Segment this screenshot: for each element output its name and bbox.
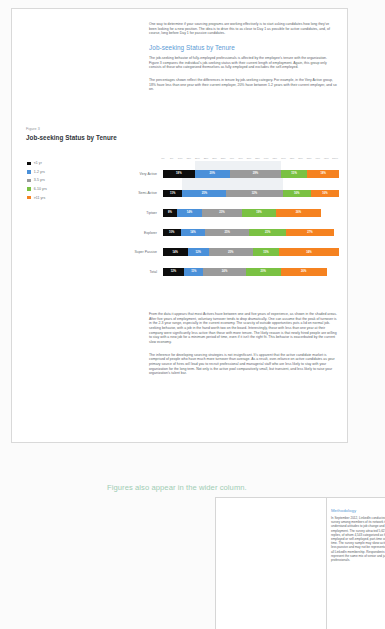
bar-segment: 10% [163, 229, 181, 237]
axis-tick-label: 45% [238, 157, 243, 159]
bar-segment: 26% [276, 209, 322, 217]
bar-segment: 18% [163, 170, 195, 178]
legend-swatch-icon [27, 179, 31, 183]
chart-bar-row: Explorer10%14%25%21%27% [111, 223, 339, 243]
bar-segment-value: 14% [190, 231, 195, 234]
figure-number: Figure 3 [26, 127, 146, 131]
methodology-column: Methodology In September 2012, LinkedIn … [331, 508, 385, 562]
bar-segment-value: 12% [195, 251, 200, 254]
chart-bar-row: Very Active18%20%29%15%18% [111, 164, 339, 184]
legend-label: >11 yrs [34, 196, 46, 200]
legend-item: 3-5 yrs [27, 176, 47, 185]
bar-segment-value: 25% [228, 251, 233, 254]
bar-segment-value: 20% [261, 270, 266, 273]
bar-track: 11%25%32%16%16% [163, 190, 339, 198]
bar-segment-value: 23% [219, 211, 224, 214]
bar-segment: 29% [230, 170, 281, 178]
page-sheet-main: One way to determine if your sourcing pr… [11, 8, 348, 443]
bar-segment-value: 11% [191, 270, 196, 273]
bar-segment: 25% [209, 248, 253, 256]
chart-bar-row: Total12%11%24%20%26% [111, 262, 339, 282]
chart-bar-row: Super Passive14%12%25%15%34% [111, 242, 339, 262]
bar-segment: 25% [205, 229, 249, 237]
axis-tick-label: 15% [186, 157, 191, 159]
bar-track: 18%20%29%15%18% [163, 170, 339, 178]
bar-category-label: Semi-Active [111, 191, 163, 195]
axis-tick-label: 5% [170, 157, 173, 159]
axis-tick-label: 70% [281, 157, 286, 159]
bar-segment: 16% [283, 190, 311, 198]
bar-segment-value: 26% [296, 211, 301, 214]
bar-segment-value: 21% [265, 231, 270, 234]
bar-segment-value: 25% [202, 192, 207, 195]
bar-segment: 16% [311, 190, 339, 198]
axis-tick-label: 20% [195, 157, 200, 159]
bar-segment: 23% [202, 209, 242, 217]
bar-segment-value: 10% [169, 231, 174, 234]
section-heading: Job-seeking Status by Tenure [149, 44, 337, 51]
document-page-spread: One way to determine if your sourcing pr… [0, 0, 385, 629]
bar-segment-value: 16% [294, 192, 299, 195]
intro-paragraph: One way to determine if your sourcing pr… [149, 22, 337, 36]
bar-segment-value: 29% [253, 172, 258, 175]
bar-segment: 8% [163, 209, 177, 217]
chart-bar-row: Semi-Active11%25%32%16%16% [111, 184, 339, 204]
bar-segment: 15% [253, 248, 279, 256]
legend-label: 1-2 yrs [34, 170, 45, 174]
bar-segment: 12% [188, 248, 209, 256]
bar-segment-value: 24% [222, 270, 227, 273]
figure-title: Job-seeking Status by Tenure [26, 134, 146, 141]
bar-track: 14%12%25%15%34% [163, 248, 339, 256]
methodology-heading: Methodology [331, 508, 385, 513]
chart-bars: Very Active18%20%29%15%18%Semi-Active11%… [111, 164, 339, 282]
bar-segment-value: 20% [210, 172, 215, 175]
bar-segment: 14% [177, 209, 202, 217]
body-text-column-lower: From the data it appears that most Activ… [149, 312, 337, 384]
axis-tick-label: 30% [212, 157, 217, 159]
axis-tick-label: 65% [272, 157, 277, 159]
bar-segment: 20% [246, 268, 281, 276]
axis-tick-label: 60% [264, 157, 269, 159]
page-sheet-methodology: Methodology In September 2012, LinkedIn … [215, 497, 385, 629]
bar-segment-value: 14% [187, 211, 192, 214]
bar-segment-value: 11% [170, 192, 175, 195]
bar-category-label: Tiptoer [111, 211, 163, 215]
bar-segment: 26% [281, 268, 327, 276]
bar-segment-value: 8% [168, 211, 172, 214]
legend-swatch-icon [27, 196, 31, 200]
bar-segment: 27% [286, 229, 334, 237]
methodology-paragraph: In September 2012, LinkedIn conducted a … [331, 516, 385, 562]
bar-segment: 21% [249, 229, 286, 237]
bar-segment: 32% [226, 190, 282, 198]
legend-item: 6-10 yrs [27, 185, 47, 194]
axis-tick-label: 0% [161, 157, 164, 159]
legend-item: >11 yrs [27, 193, 47, 202]
bar-category-label: Total [111, 270, 163, 274]
bar-segment-value: 19% [256, 211, 261, 214]
chart-x-axis: 0%5%10%15%20%25%30%35%40%45%50%55%60%65%… [163, 157, 335, 164]
axis-tick-label: 35% [221, 157, 226, 159]
bar-category-label: Very Active [111, 172, 163, 176]
after-figure-paragraph-1: From the data it appears that most Activ… [149, 312, 337, 345]
after-figure-paragraph-2: The inference for developing sourcing st… [149, 353, 337, 376]
column-rule [326, 498, 327, 629]
bar-segment-value: 27% [307, 231, 312, 234]
bar-segment: 25% [182, 190, 226, 198]
axis-tick-label: 85% [307, 157, 312, 159]
bar-category-label: Explorer [111, 231, 163, 235]
section-paragraph-1: The job-seeking behavior of fully-employ… [149, 56, 337, 70]
bar-segment: 20% [195, 170, 230, 178]
axis-tick-label: 10% [178, 157, 183, 159]
bar-track: 8%14%23%19%26% [163, 209, 339, 217]
bar-segment: 19% [242, 209, 275, 217]
axis-tick-label: 55% [255, 157, 260, 159]
bar-segment: 12% [163, 268, 184, 276]
axis-tick-label: 95% [324, 157, 329, 159]
bar-segment-value: 26% [301, 270, 306, 273]
legend-swatch-icon [27, 187, 31, 191]
bar-segment: 14% [163, 248, 188, 256]
bar-segment: 15% [281, 170, 307, 178]
legend-item: <1 yr [27, 159, 47, 168]
legend-label: <1 yr [34, 161, 42, 165]
bar-segment-value: 16% [322, 192, 327, 195]
